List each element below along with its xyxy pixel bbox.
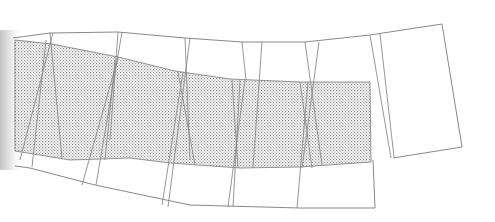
outline-bottom (15, 160, 375, 208)
folded-plane-diagram (0, 0, 495, 222)
fold-line (380, 34, 394, 157)
fold-line (370, 35, 391, 158)
shaded-region (15, 40, 371, 168)
outline-right (393, 24, 462, 158)
hatched-plane (15, 40, 371, 168)
outline-top (13, 24, 442, 42)
fold-line (242, 42, 246, 80)
